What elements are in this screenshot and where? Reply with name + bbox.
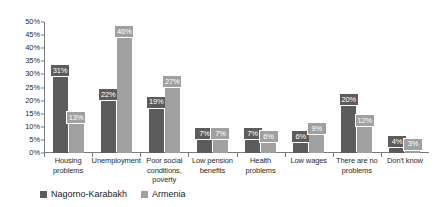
bar-chart: 0%5%10%15%20%25%30%35%40%45%50%31%13%22%… — [0, 0, 437, 207]
legend-item[interactable]: Armenia — [141, 189, 186, 199]
bar-am — [165, 82, 180, 153]
bar-nk — [101, 95, 116, 153]
bar-value-label: 3% — [403, 138, 423, 151]
y-axis-tick-mark — [41, 100, 44, 101]
bar-value-label: 9% — [307, 122, 327, 135]
bar-value-label: 31% — [50, 64, 70, 77]
y-axis-tick-mark — [41, 22, 44, 23]
bar-value-label: 7% — [210, 127, 230, 140]
category-label-line: problems — [327, 166, 387, 176]
legend-swatch-icon — [141, 191, 148, 198]
legend-label: Nagorno-Karabakh — [51, 189, 127, 199]
legend-item[interactable]: Nagorno-Karabakh — [40, 189, 127, 199]
bar-value-label: 19% — [146, 96, 166, 109]
y-axis-tick-mark — [41, 74, 44, 75]
legend-label: Armenia — [152, 189, 186, 199]
legend-swatch-icon — [40, 191, 47, 198]
y-axis-tick-mark — [41, 113, 44, 114]
category-label-line: Don't know — [375, 156, 435, 166]
y-axis-tick-mark — [41, 61, 44, 62]
y-axis-tick-mark — [41, 35, 44, 36]
y-axis-tick-mark — [41, 139, 44, 140]
y-axis-tick-mark — [41, 48, 44, 49]
bar-value-label: 12% — [355, 114, 375, 127]
bar-value-label: 22% — [98, 88, 118, 101]
x-axis-category-labels: HousingproblemsUnemploymentPoor socialco… — [44, 156, 429, 186]
x-axis-category-label: Don't know — [375, 156, 435, 166]
y-axis-tick-mark — [41, 126, 44, 127]
bar-value-label: 6% — [259, 130, 279, 143]
bar-value-label: 27% — [162, 75, 182, 88]
category-label-line: problems — [38, 166, 98, 176]
category-label-line: poverty — [134, 175, 194, 185]
chart-legend: Nagorno-KarabakhArmenia — [40, 189, 186, 199]
bar-am — [117, 32, 132, 153]
bar-value-label: 20% — [339, 93, 359, 106]
category-label-line: problems — [231, 166, 291, 176]
bar-value-label: 46% — [114, 25, 134, 38]
bar-value-label: 13% — [66, 111, 86, 124]
y-axis-tick-mark — [41, 87, 44, 88]
bar-nk — [149, 103, 164, 153]
plot-area: 0%5%10%15%20%25%30%35%40%45%50%31%13%22%… — [44, 22, 429, 153]
